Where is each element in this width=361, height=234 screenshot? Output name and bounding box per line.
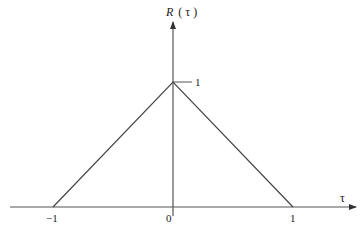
autocorrelation-diagram: R ( τ ) τ 1 −1 0 1 bbox=[0, 0, 361, 234]
y-axis-label: R ( τ ) bbox=[165, 5, 197, 19]
x-tick-label-0: 0 bbox=[166, 212, 172, 224]
x-tick-label-neg1: −1 bbox=[46, 212, 58, 224]
x-axis-label: τ bbox=[340, 191, 345, 205]
y-tick-label-1: 1 bbox=[195, 76, 201, 88]
x-tick-label-1: 1 bbox=[290, 212, 296, 224]
